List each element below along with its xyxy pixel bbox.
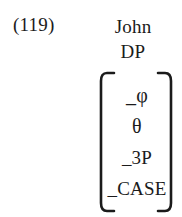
attribute-value-matrix: _φ θ _3P _CASE [98, 70, 174, 214]
matrix-row: _CASE [106, 173, 168, 204]
matrix-rows: _φ θ _3P _CASE [106, 75, 168, 209]
matrix-row: _φ [106, 80, 168, 111]
head-category: DP [92, 39, 174, 64]
example-figure: (119) John DP _φ θ _3P _CASE [0, 0, 182, 217]
matrix-row: θ [106, 111, 168, 142]
head-lexical-item: John [92, 14, 174, 39]
example-number: (119) [13, 14, 54, 36]
matrix-row: _3P [106, 142, 168, 173]
head-label: John DP [92, 14, 174, 64]
